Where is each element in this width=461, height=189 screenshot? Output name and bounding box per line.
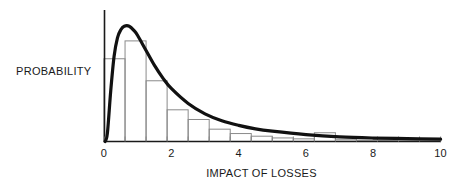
x-axis-tick-label: 10 <box>434 147 447 159</box>
x-axis-tick-label: 0 <box>101 147 107 159</box>
histogram-bars <box>104 41 441 142</box>
histogram-bar <box>146 81 167 142</box>
histogram-bar <box>209 129 230 141</box>
axis-group <box>104 10 441 142</box>
fitted-curve-group <box>105 26 441 142</box>
x-axis-tick-label: 8 <box>370 147 376 159</box>
histogram-bar <box>188 119 209 141</box>
x-axis-tick-label: 4 <box>235 147 241 159</box>
x-axis-tick-label: 2 <box>168 147 174 159</box>
fitted-curve-path <box>105 26 441 142</box>
x-axis-tick-label: 6 <box>303 147 309 159</box>
histogram-bar <box>230 134 251 142</box>
y-axis-title: PROBABILITY <box>16 66 91 77</box>
x-axis-title: IMPACT OF LOSSES <box>0 168 461 179</box>
histogram-bar <box>125 41 146 142</box>
chart-figure: 0246810 PROBABILITY IMPACT OF LOSSES <box>0 0 461 189</box>
histogram-bar <box>167 110 188 142</box>
x-axis-tick-labels: 0246810 <box>101 147 447 159</box>
probability-distribution-chart: 0246810 <box>0 0 461 189</box>
